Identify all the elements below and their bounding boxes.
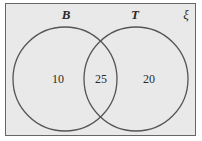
region-only-b-value: 10 — [52, 72, 64, 86]
venn-diagram: B T ξ 10 25 20 — [0, 0, 202, 141]
region-b-and-t-value: 25 — [95, 72, 107, 86]
region-only-t-value: 20 — [143, 72, 155, 86]
set-t-label: T — [131, 7, 140, 22]
set-b-label: B — [61, 7, 71, 22]
universal-set-frame — [6, 4, 196, 136]
universal-set-label: ξ — [183, 7, 189, 22]
